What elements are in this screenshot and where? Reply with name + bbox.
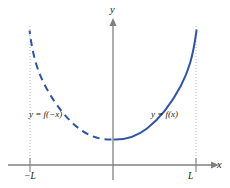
curve-label-f-of-x: y = f(x) bbox=[151, 110, 178, 119]
curve-f-of-x bbox=[115, 31, 197, 140]
y-axis-arrow-icon bbox=[109, 18, 116, 26]
curve-label-f-of-neg-x: y = f(−x) bbox=[29, 110, 62, 119]
plot-canvas bbox=[0, 0, 230, 188]
curve-f-of-neg-x bbox=[30, 31, 112, 140]
even-function-figure: y x y = f(−x) y = f(x) −L L bbox=[0, 0, 230, 188]
x-tick-label-neg-l: −L bbox=[24, 172, 36, 182]
x-axis-label: x bbox=[217, 160, 222, 171]
x-tick-label-pos-l: L bbox=[188, 172, 193, 182]
y-axis-label: y bbox=[110, 5, 115, 16]
